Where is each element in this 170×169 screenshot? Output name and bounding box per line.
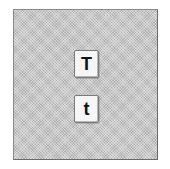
case-panel: T t bbox=[13, 9, 158, 160]
uppercase-label: T bbox=[81, 54, 92, 75]
uppercase-button[interactable]: T bbox=[74, 50, 99, 78]
lowercase-label: t bbox=[84, 99, 90, 120]
lowercase-button[interactable]: t bbox=[74, 95, 99, 123]
